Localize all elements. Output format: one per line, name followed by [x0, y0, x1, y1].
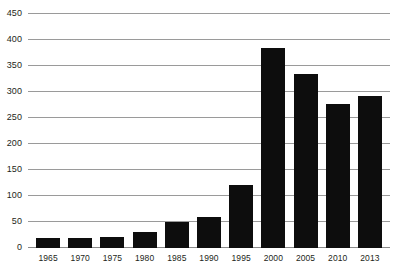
- x-axis-tick-label: 2000: [264, 254, 283, 263]
- x-axis-tick-label: 1990: [199, 254, 218, 263]
- x-axis-tick-label: 2005: [296, 254, 315, 263]
- y-axis-tick-label: 350: [7, 61, 22, 70]
- bar: [261, 48, 285, 248]
- y-axis-tick-label: 0: [17, 243, 22, 252]
- bar: [358, 96, 382, 248]
- x-axis-tick-label: 1995: [232, 254, 251, 263]
- y-axis-tick-label: 200: [7, 139, 22, 148]
- x-axis-tick-label: 1985: [167, 254, 186, 263]
- plot-area: 050100150200250300350400450 196519701975…: [28, 14, 390, 248]
- y-axis-tick-label: 300: [7, 87, 22, 96]
- bar: [133, 232, 157, 248]
- bar: [100, 237, 124, 248]
- x-axis-tick-label: 1965: [38, 254, 57, 263]
- x-axis-tick-label: 1970: [71, 254, 90, 263]
- x-axis-tick-label: 2013: [360, 254, 379, 263]
- y-axis-tick-label: 50: [12, 217, 22, 226]
- bar: [165, 222, 189, 248]
- bar: [197, 217, 221, 248]
- bar: [68, 238, 92, 248]
- x-axis-tick-label: 2010: [328, 254, 347, 263]
- y-axis-tick-label: 250: [7, 113, 22, 122]
- bar-chart: 050100150200250300350400450 196519701975…: [0, 0, 404, 277]
- y-axis-tick-label: 400: [7, 35, 22, 44]
- y-axis-tick-label: 450: [7, 9, 22, 18]
- x-axis-tick-label: 1975: [103, 254, 122, 263]
- y-axis-tick-label: 100: [7, 191, 22, 200]
- y-axis-tick-label: 150: [7, 165, 22, 174]
- bar: [36, 238, 60, 248]
- bar: [229, 185, 253, 248]
- x-axis-tick-label: 1980: [135, 254, 154, 263]
- bar: [326, 104, 350, 248]
- bar: [294, 74, 318, 248]
- bar-group: 1965197019751980198519901995200020052010…: [28, 14, 390, 248]
